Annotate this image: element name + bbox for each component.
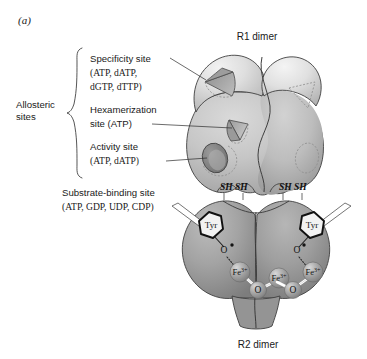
oxygen-bridge-label-left: O <box>255 285 262 295</box>
r1-dimer-title: R1 dimer <box>237 31 278 42</box>
r2-dimer-title: R2 dimer <box>238 339 279 350</box>
radical-dot-left <box>230 243 233 246</box>
activity-site-line1: Activity site <box>90 141 138 152</box>
allosteric-label-line2: sites <box>16 111 36 122</box>
tyr-label-left: Tyr <box>205 220 217 230</box>
allosteric-label-line1: Allosteric <box>16 99 55 110</box>
oxygen-bridge-label-right: O <box>290 285 297 295</box>
sh-label-right: SH SH <box>279 182 307 192</box>
radical-dot-right <box>302 243 305 246</box>
panel-label: (a) <box>18 14 31 27</box>
substrate-line2: (ATP, GDP, UDP, CDP) <box>62 201 154 213</box>
oxygen-label-right: O <box>294 245 301 255</box>
hexamerization-site-line2: site (ATP) <box>90 118 132 129</box>
thiol-group-right: SH SH <box>279 182 307 200</box>
specificity-site-label: Specificity site (ATP, dATP, dGTP, dTTP) <box>90 53 206 93</box>
tyr-label-right: Tyr <box>306 220 318 230</box>
rnr-structure-diagram: (a) R1 dimer <box>0 0 367 359</box>
oxygen-label-left: O <box>221 245 228 255</box>
r1-dimer-shape <box>187 55 324 195</box>
substrate-binding-site-label: Substrate-binding site (ATP, GDP, UDP, C… <box>62 187 155 213</box>
activity-site-line2: (ATP, dATP) <box>90 155 139 167</box>
thiol-group-left: SH SH <box>220 182 248 200</box>
figure-panel-a: (a) R1 dimer <box>0 0 367 359</box>
specificity-site-line2: (ATP, dATP, <box>90 67 137 79</box>
iron-atom-left-1: Fe3+ <box>230 262 250 282</box>
bridging-oxygen-left: O <box>250 282 267 299</box>
specificity-site-line1: Specificity site <box>90 53 151 64</box>
bridging-oxygen-right: O <box>285 282 302 299</box>
specificity-site-line3: dGTP, dTTP) <box>90 81 142 93</box>
allosteric-brace <box>67 48 82 178</box>
substrate-line1: Substrate-binding site <box>62 187 155 198</box>
allosteric-sites-group-label: Allosteric sites <box>16 99 55 122</box>
iron-atom-right-1: Fe3+ <box>303 262 323 282</box>
hexamerization-site-line1: Hexamerization <box>90 104 157 115</box>
sh-label-left: SH SH <box>220 182 248 192</box>
